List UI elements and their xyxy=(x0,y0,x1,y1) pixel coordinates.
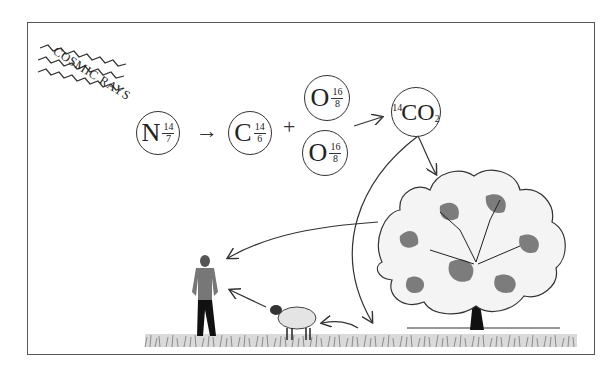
man-icon xyxy=(192,255,218,336)
oxygen-mass: 16 xyxy=(331,87,343,99)
diagram-canvas xyxy=(0,0,612,375)
arrow-co2-to-tree xyxy=(418,136,436,174)
co2-subscript: 2 xyxy=(435,113,440,124)
carbon-dioxide-molecule: 14 CO 2 xyxy=(391,87,441,137)
carbon-atomic: 6 xyxy=(257,134,262,145)
oxygen-atom-top: O 168 xyxy=(304,75,350,121)
oxygen-symbol: O xyxy=(309,140,328,166)
oxygen-atomic: 8 xyxy=(335,99,340,110)
co2-symbol: CO xyxy=(401,100,434,124)
tree-icon xyxy=(377,170,565,330)
grass-icon xyxy=(145,334,577,347)
oxygen-symbol: O xyxy=(311,85,330,111)
oxygen-atom-bottom: O 168 xyxy=(302,130,348,176)
arrow-grass-to-sheep xyxy=(322,322,358,328)
oxygen-mass: 16 xyxy=(329,142,341,154)
nitrogen-atom: N 147 xyxy=(136,111,180,155)
carbon-mass: 14 xyxy=(254,122,266,134)
oxygen-atomic: 8 xyxy=(333,154,338,165)
arrow-sheep-to-man xyxy=(230,290,266,307)
nitrogen-mass: 14 xyxy=(162,122,174,134)
reaction-arrow: → xyxy=(196,118,218,144)
nitrogen-symbol: N xyxy=(142,120,161,146)
nitrogen-atomic: 7 xyxy=(166,134,171,145)
carbon-symbol: C xyxy=(234,120,251,146)
arrow-to-co2 xyxy=(354,117,382,126)
carbon-atom: C 146 xyxy=(228,111,272,155)
plus-sign: + xyxy=(283,114,295,140)
